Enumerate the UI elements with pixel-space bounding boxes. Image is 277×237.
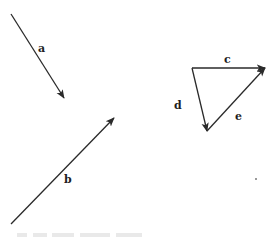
vector-a-label: a — [38, 42, 45, 55]
vector-diagram: a b c d e — [0, 0, 277, 237]
vector-b: b — [11, 118, 114, 224]
vector-a: a — [11, 14, 64, 98]
vector-d-arrow — [192, 68, 207, 131]
scan-speck — [255, 178, 257, 180]
vector-d-label: d — [174, 99, 182, 112]
vector-b-label: b — [64, 173, 72, 186]
vector-a-arrow — [11, 14, 64, 98]
vector-e-label: e — [235, 110, 242, 123]
cropped-caption-remnant — [17, 233, 142, 237]
vector-triangle: c d e — [174, 53, 265, 131]
vector-c-label: c — [224, 53, 231, 66]
vector-b-arrow — [11, 118, 114, 224]
